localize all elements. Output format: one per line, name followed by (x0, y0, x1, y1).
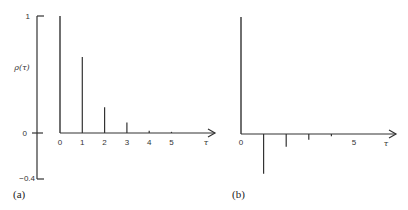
x-tick-label-a: 5 (169, 138, 174, 147)
bars-b (241, 17, 331, 174)
y-label-0: 0 (23, 129, 28, 138)
panel-label-a: (a) (13, 188, 26, 201)
x-tick-labels-a: 012345 (58, 138, 175, 147)
x-axis-title-a: τ (204, 138, 209, 147)
y-axis-title-a: ρ(τ) (13, 63, 29, 72)
panel-label-b: (b) (232, 188, 245, 201)
y-label-neg04: −0.4 (19, 174, 35, 183)
x-tick-label-a: 3 (125, 138, 130, 147)
x-tick-0-b: 0 (239, 138, 244, 147)
bars-a (60, 16, 172, 133)
x-tick-label-a: 4 (147, 138, 152, 147)
x-tick-label-a: 1 (80, 138, 85, 147)
y-label-1: 1 (26, 12, 31, 21)
panel-a (32, 16, 215, 179)
x-tick-label-a: 0 (58, 138, 63, 147)
acf-figure: 1 ρ(τ) 0 −0.4 012345 τ (a) 0 5 τ (b) (0, 0, 408, 210)
x-tick-5-b: 5 (352, 138, 357, 147)
x-axis-title-b: τ (384, 139, 389, 148)
x-tick-label-a: 2 (102, 138, 107, 147)
panel-b (241, 17, 396, 174)
